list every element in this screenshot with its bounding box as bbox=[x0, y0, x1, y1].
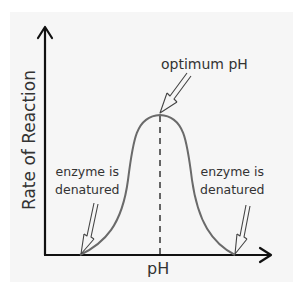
left-denatured-note: enzyme is denatured bbox=[55, 163, 120, 199]
diagram-frame: Rate of Reaction pH optimum pH enzyme is… bbox=[0, 0, 293, 296]
optimum-ph-label: optimum pH bbox=[161, 57, 248, 71]
right-note-line1: enzyme is bbox=[200, 163, 265, 181]
enzyme-ph-plot bbox=[0, 0, 293, 296]
right-denatured-arrow-icon bbox=[235, 205, 250, 254]
optimum-arrow-icon bbox=[160, 73, 191, 113]
left-note-line2: denatured bbox=[55, 181, 120, 199]
right-denatured-note: enzyme is denatured bbox=[200, 163, 265, 199]
y-axis-label: Rate of Reaction bbox=[21, 70, 38, 210]
x-axis-label: pH bbox=[147, 261, 169, 277]
left-note-line1: enzyme is bbox=[55, 163, 120, 181]
right-note-line2: denatured bbox=[200, 181, 265, 199]
